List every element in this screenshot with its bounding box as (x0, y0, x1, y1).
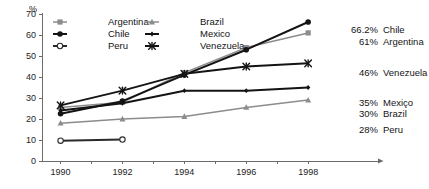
y-tick-label: 0 (31, 156, 36, 166)
series-path (61, 140, 123, 141)
series-peru (58, 137, 125, 143)
y-tick-label: 50 (26, 51, 36, 61)
end-label-value: 61% (359, 36, 379, 47)
end-label-value: 28% (359, 124, 379, 135)
series-chile (58, 19, 311, 116)
end-label-name: Brazil (383, 108, 407, 119)
end-label-name: Argentina (383, 36, 424, 47)
legend-item-mexico[interactable]: Mexico (145, 28, 230, 39)
circle-open-marker (57, 43, 62, 48)
end-labels: 66.2%Chile61%Argentina46%Venezuela35%Mex… (351, 24, 428, 135)
end-label-brazil: 30%Brazil (359, 108, 407, 119)
legend-label: Argentina (108, 16, 149, 27)
circle-filled-marker (305, 19, 311, 25)
end-label-mexio: 35%Mexiço (359, 97, 413, 108)
legend-item-venezuela[interactable]: Venezuela (145, 40, 245, 51)
x-tick-label: 1996 (236, 167, 256, 177)
legend-label: Chile (108, 28, 130, 39)
square-marker (306, 30, 311, 35)
x-tick-label: 1990 (51, 167, 71, 177)
series-venezuela (57, 60, 311, 109)
series-lines (57, 19, 311, 143)
series-path (61, 22, 309, 114)
end-label-name: Chile (383, 24, 405, 35)
y-tick-label: 20 (26, 114, 36, 124)
diamond-small-marker (244, 88, 248, 93)
chart-container: 010203040506070%19901992199419961998 Arg… (0, 0, 429, 189)
y-tick-label: 30 (26, 93, 36, 103)
square-marker (57, 19, 62, 24)
end-label-value: 30% (359, 108, 379, 119)
end-label-name: Peru (383, 124, 403, 135)
end-label-value: 46% (359, 67, 379, 78)
series-brazil (58, 97, 312, 126)
circle-open-marker (120, 137, 125, 142)
end-label-venezuela: 46%Venezuela (359, 67, 428, 78)
legend-label: Brazil (200, 16, 224, 27)
end-label-chile: 66.2%Chile (351, 24, 405, 35)
x-tick-label: 1992 (112, 167, 132, 177)
legend-label: Venezuela (200, 40, 245, 51)
end-label-value: 66.2% (351, 24, 378, 35)
x-tick-label: 1994 (174, 167, 194, 177)
series-mexico (58, 85, 310, 113)
y-axis-unit-label: % (29, 4, 37, 14)
circle-filled-marker (57, 31, 63, 37)
x-axis-arrow (378, 158, 384, 163)
end-label-name: Mexiço (383, 97, 413, 108)
legend-item-brazil[interactable]: Brazil (145, 16, 224, 27)
end-label-argentina: 61%Argentina (359, 36, 424, 47)
x-tick-label: 1998 (298, 167, 318, 177)
end-label-value: 35% (359, 97, 379, 108)
circle-open-marker (58, 138, 63, 143)
diamond-small-marker (306, 85, 310, 90)
legend-item-chile[interactable]: Chile (53, 28, 130, 39)
end-label-name: Venezuela (383, 67, 428, 78)
legend-item-argentina[interactable]: Argentina (53, 16, 149, 27)
y-tick-label: 60 (26, 30, 36, 40)
legend-label: Mexico (200, 28, 230, 39)
diamond-small-marker (182, 88, 186, 93)
diamond-small-marker (150, 32, 154, 37)
legend: ArgentinaBrazilChileMexicoPeruVenezuela (53, 16, 245, 51)
y-tick-label: 40 (26, 72, 36, 82)
series-path (61, 63, 309, 105)
y-tick-label: 10 (26, 135, 36, 145)
legend-label: Peru (108, 40, 128, 51)
line-chart: 010203040506070%19901992199419961998 Arg… (0, 0, 429, 189)
legend-item-peru[interactable]: Peru (53, 40, 128, 51)
end-label-peru: 28%Peru (359, 124, 403, 135)
